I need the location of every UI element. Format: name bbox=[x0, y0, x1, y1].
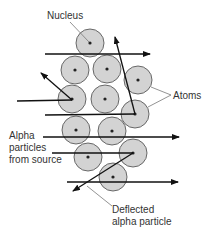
atom bbox=[61, 56, 89, 84]
atoms-leader-lower bbox=[148, 95, 171, 107]
atom bbox=[99, 163, 127, 191]
atoms-label: Atoms bbox=[173, 90, 201, 101]
alpha-scattering-diagram: Nucleus Atoms Alpha particles from sourc… bbox=[0, 0, 214, 237]
nucleus-dot bbox=[73, 68, 76, 71]
atom bbox=[62, 116, 90, 144]
atoms-group bbox=[58, 29, 152, 191]
deflected-label-line2: alpha particle bbox=[112, 216, 172, 227]
nucleus-label: Nucleus bbox=[47, 10, 83, 21]
nucleus-dot bbox=[103, 97, 106, 100]
atom bbox=[74, 143, 102, 171]
nucleus-dot bbox=[110, 129, 113, 132]
deflected-label-line1: Deflected bbox=[112, 204, 154, 215]
atom bbox=[58, 85, 86, 113]
atoms-leader-upper bbox=[151, 87, 171, 95]
atom bbox=[91, 85, 119, 113]
nucleus-dot bbox=[74, 128, 77, 131]
alpha-source-label-line1: Alpha bbox=[9, 130, 35, 141]
nucleus-dot bbox=[111, 175, 114, 178]
alpha-source-label-line2: particles bbox=[9, 142, 46, 153]
nucleus-dot bbox=[105, 67, 108, 70]
nucleus-dot bbox=[136, 78, 139, 81]
nucleus-dot bbox=[86, 155, 89, 158]
atom bbox=[93, 55, 121, 83]
atom bbox=[98, 117, 126, 145]
alpha-source-label-line3: from source bbox=[9, 154, 62, 165]
